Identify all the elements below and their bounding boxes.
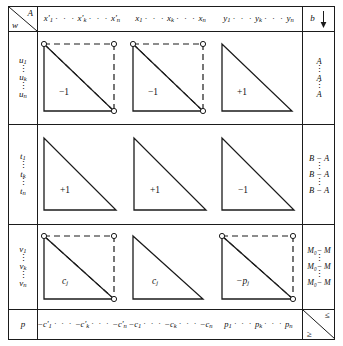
colhdr-y-dots-1: · · ·: [231, 14, 256, 23]
node-bottomright-r3c1: [111, 296, 116, 301]
node-bottomright-r1c1: [111, 108, 116, 113]
rhs-M-last: M₀− M: [307, 279, 331, 287]
node-topright-r3c3: [290, 233, 295, 238]
block-shape-r2c2: [128, 130, 213, 220]
block-label-r2c3: −1: [238, 185, 248, 195]
solid-triangle-r2c1: [44, 138, 116, 210]
bottom-c-last: −c: [200, 319, 210, 329]
node-topright-r1c2: [200, 41, 205, 46]
block-label-r3c3: −pj: [236, 276, 249, 286]
block-label-r3c3-sub: j: [247, 279, 249, 286]
bottom-cprime-last-sub: n: [123, 322, 126, 329]
corner-label-A: A: [28, 8, 34, 18]
bottom-p-dots-1: · · ·: [232, 320, 255, 328]
bottom-c-middle: −c: [164, 319, 174, 329]
corner-label-w: w: [12, 20, 18, 30]
solid-triangle-r3c2: [133, 236, 203, 299]
row-header-block-u: u1 ⋮ uk ⋮ un: [9, 32, 37, 124]
node-topright-r1c1: [111, 41, 116, 46]
colhdr-b: b: [310, 14, 315, 23]
rhs-block-M0-minus-M: M₀− M ⋮ M₀− M ⋮ M₀− M: [303, 225, 335, 309]
column-header-rhs-b: b: [303, 7, 335, 31]
rhs-corner-cell-inequalities: ≤ ≥: [303, 310, 335, 339]
grid-hline-header: [8, 31, 335, 32]
block-shape-r3c1: [38, 228, 126, 308]
colhdr-y-dots-2: · · ·: [262, 14, 287, 23]
bottom-row-block-p: p1 · · · pk · · · pn: [215, 310, 302, 339]
rhs-block-B-minus-A: B − A ⋮ B − A ⋮ B − A: [303, 125, 335, 224]
bottom-cprime-last: −c': [112, 319, 123, 329]
rhs-corner-label-leq: ≤: [325, 310, 330, 320]
block-label-r2c1: +1: [60, 185, 70, 195]
bottom-cprime-dots-1: · · ·: [52, 320, 75, 328]
bottom-c-last-sub: n: [209, 322, 212, 329]
node-topleft-r1c1: [41, 41, 46, 46]
block-label-r1c2: −1: [148, 87, 158, 97]
node-topright-r3c1: [111, 233, 116, 238]
block-label-r3c1: cj: [62, 276, 68, 286]
node-bottomright-r1c2: [200, 108, 205, 113]
node-topleft-r3c3: [219, 233, 224, 238]
colhdr-x-last-sub: n: [202, 16, 205, 23]
bottom-p-last-sub: n: [289, 322, 292, 329]
row-header-bottom-p: p: [9, 310, 37, 339]
block-cell-r2c1: +1: [38, 130, 126, 220]
block-shape-r3c2: [128, 228, 213, 308]
rhs-BA-last: B − A: [309, 186, 329, 195]
node-topleft-r3c1: [41, 233, 46, 238]
rowhdr-v-last-sub: n: [23, 281, 26, 288]
node-topleft-r1c2: [130, 41, 135, 46]
block-shape-r1c3: [215, 35, 302, 121]
figure-canvas: A w x'1 · · · x'k · · · x'n x1 · · · xk …: [0, 0, 343, 346]
block-cell-r3c1: cj: [38, 228, 126, 308]
rowhdr-p: p: [21, 320, 26, 329]
bottom-c-dots-1: · · ·: [141, 320, 164, 328]
colhdr-x-dots-2: · · ·: [174, 14, 199, 23]
grid-hline-row1: [8, 124, 335, 125]
bottom-row-block-neg-c-prime: −c'1 · · · −c'k · · · −c'n: [38, 310, 126, 339]
block-cell-r3c3: −pj: [215, 228, 302, 308]
block-cell-r1c3: +1: [215, 35, 302, 121]
block-shape-r2c1: [38, 130, 126, 220]
column-header-block-y: y1 · · · yk · · · yn: [215, 7, 302, 31]
row-header-block-t: t1 ⋮ tk ⋮ tn: [9, 125, 37, 224]
colhdr-xprime-dots-2: · · ·: [86, 14, 111, 23]
block-cell-r1c1: −1: [38, 35, 126, 121]
block-label-r3c2-sub: j: [156, 279, 158, 286]
down-arrow-icon: [319, 11, 328, 28]
block-label-r2c2: +1: [150, 185, 160, 195]
bottom-p-dots-2: · · ·: [262, 320, 285, 328]
rhs-A-last: A: [316, 90, 321, 99]
node-bottomright-r3c3: [290, 296, 295, 301]
colhdr-xprime-dots-1: · · ·: [53, 14, 78, 23]
block-label-r3c2: cj: [152, 276, 158, 286]
rowhdr-t-last-sub: n: [23, 189, 26, 196]
block-label-r1c1: −1: [59, 87, 69, 97]
bottom-row-block-neg-c: −c1 · · · −ck · · · −cn: [128, 310, 213, 339]
bottom-cprime-middle: −c': [75, 319, 86, 329]
block-cell-r2c3: −1: [215, 130, 302, 220]
grid-hline-row2: [8, 224, 335, 225]
solid-triangle-r2c2: [134, 138, 206, 210]
bottom-c-first: −c: [128, 319, 138, 329]
bottom-c-dots-2: · · ·: [177, 320, 200, 328]
colhdr-y-last-sub: n: [290, 16, 293, 23]
solid-triangle-r2c3: [222, 138, 294, 210]
rowhdr-u-last-sub: n: [24, 92, 27, 99]
block-shape-r1c1: [38, 35, 126, 121]
row-header-block-v: v1 ⋮ vk ⋮ vn: [9, 225, 37, 309]
block-cell-r1c2: −1: [128, 35, 213, 121]
solid-triangle-r1c3: [222, 44, 292, 111]
block-cell-r2c2: +1: [128, 130, 213, 220]
corner-cell-A-w: A w: [9, 7, 37, 31]
colhdr-x-dots-1: · · ·: [143, 14, 168, 23]
block-cell-r3c2: cj: [128, 228, 213, 308]
block-label-r1c3: +1: [237, 87, 247, 97]
block-shape-r1c2: [128, 35, 213, 121]
column-header-block-x-prime: x'1 · · · x'k · · · x'n: [38, 7, 126, 31]
rhs-corner-label-geq: ≥: [307, 329, 312, 339]
bottom-cprime-first: −c': [37, 319, 48, 329]
block-label-r3c3-text: −p: [236, 276, 247, 286]
block-shape-r2c3: [215, 130, 302, 220]
column-header-block-x: x1 · · · xk · · · xn: [128, 7, 213, 31]
